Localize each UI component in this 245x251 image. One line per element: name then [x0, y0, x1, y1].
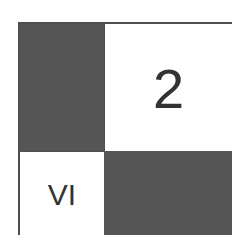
number-label: 2	[153, 61, 184, 117]
grid-board: 2 VI	[18, 22, 232, 235]
cell-top-left-dark	[20, 24, 104, 151]
roman-numeral-label: VI	[48, 180, 76, 210]
cell-top-right-light: 2	[104, 24, 232, 151]
cell-bottom-left-light: VI	[20, 151, 104, 235]
cell-bottom-right-dark	[104, 151, 232, 235]
